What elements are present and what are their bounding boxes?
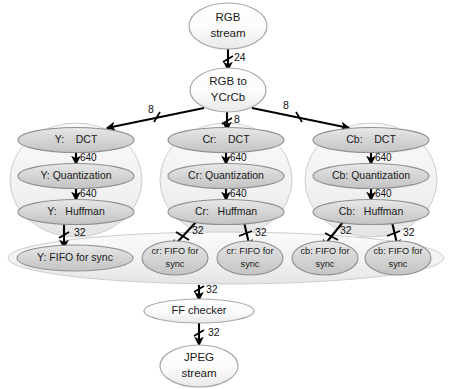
node-cb-huffman[interactable]: Cb: Huffman xyxy=(313,200,429,225)
node-rgb-to-ycrcb[interactable]: RGB to YCrCb xyxy=(190,68,266,112)
node-label-line1: RGB to xyxy=(209,75,247,87)
node-label: Cr: Quantization xyxy=(188,169,264,181)
node-label-line1: cb: FIFO for xyxy=(300,246,349,256)
edge-label-cb-huffman-to-fifo1: 32 xyxy=(340,224,352,236)
edge-label-cb-quant-to-huffman: 640 xyxy=(375,188,392,199)
node-label-line1: JPEG xyxy=(184,351,214,363)
edge-label-y-huffman-to-fifo: 32 xyxy=(74,226,86,238)
node-label: Cb: DCT xyxy=(346,133,396,145)
node-label: Cb: Huffman xyxy=(339,205,404,217)
node-cr-dct[interactable]: Cr: DCT xyxy=(168,128,284,153)
edge-label-cb-huffman-to-fifo2: 32 xyxy=(403,226,415,238)
node-label-line2: stream xyxy=(181,367,216,379)
edge-label-cr-dct-to-quant: 640 xyxy=(230,152,247,163)
node-cb-fifo-for-sync-1[interactable]: cb: FIFO for sync xyxy=(292,241,358,275)
node-cb-dct[interactable]: Cb: DCT xyxy=(313,128,429,153)
edge-label-cr-quant-to-huffman: 640 xyxy=(230,188,247,199)
node-label-line2: sync xyxy=(316,259,335,269)
node-label-line1: cr: FIFO for xyxy=(227,246,274,256)
node-label-line2: sync xyxy=(166,259,185,269)
node-label: FF checker xyxy=(171,304,226,316)
node-ff-checker[interactable]: FF checker xyxy=(144,299,254,323)
edge-label-cr-huffman-to-fifo1: 32 xyxy=(192,224,204,236)
node-cr-quantization[interactable]: Cr: Quantization xyxy=(168,164,284,189)
node-jpeg-stream[interactable]: JPEG stream xyxy=(160,345,238,387)
node-label: Y: DCT xyxy=(55,133,98,145)
edge-label-convert-to-cr: 8 xyxy=(234,113,240,125)
node-label-line2: stream xyxy=(210,27,245,39)
edge-label-ff-checker-to-jpeg: 32 xyxy=(208,326,220,338)
node-label-line2: YCrCb xyxy=(211,91,246,103)
node-label-line1: RGB xyxy=(216,11,241,23)
node-label: Y: Huffman xyxy=(47,205,105,217)
edge-label-convert-to-y: 8 xyxy=(148,103,154,115)
edge-label-y-quant-to-huffman: 640 xyxy=(80,188,97,199)
node-y-dct[interactable]: Y: DCT xyxy=(18,128,134,153)
node-cb-fifo-for-sync-2[interactable]: cb: FIFO for sync xyxy=(365,241,431,275)
edge-label-convert-to-cb: 8 xyxy=(283,99,289,111)
node-cb-quantization[interactable]: Cb: Quantization xyxy=(313,164,429,189)
node-label: Cb: Quantization xyxy=(332,169,410,181)
node-label-line2: sync xyxy=(389,259,408,269)
node-cr-fifo-for-sync-1[interactable]: cr: FIFO for sync xyxy=(142,241,208,275)
node-label: Cr: Huffman xyxy=(195,205,257,217)
node-y-quantization[interactable]: Y: Quantization xyxy=(18,164,134,189)
node-label-line1: cr: FIFO for xyxy=(152,246,199,256)
node-label-line2: sync xyxy=(241,259,260,269)
edge-label-cr-huffman-to-fifo2: 32 xyxy=(255,226,267,238)
edge-label-cb-dct-to-quant: 640 xyxy=(375,152,392,163)
node-shape xyxy=(189,3,267,49)
node-label: Y: Quantization xyxy=(40,169,111,181)
node-rgb-stream[interactable]: RGB stream xyxy=(189,3,267,49)
node-y-huffman[interactable]: Y: Huffman xyxy=(18,200,134,225)
edge-label-fifo-to-ff-checker: 32 xyxy=(206,283,218,295)
node-label-line1: cb: FIFO for xyxy=(373,246,422,256)
jpeg-encoder-pipeline-diagram: RGB stream RGB to YCrCb Y: DCT Y: Quanti… xyxy=(0,0,455,389)
edge-label-rgb-to-convert: 24 xyxy=(234,51,246,63)
edge-label-y-dct-to-quant: 640 xyxy=(80,152,97,163)
node-cr-huffman[interactable]: Cr: Huffman xyxy=(168,200,284,225)
node-y-fifo-for-sync[interactable]: Y: FIFO for sync xyxy=(17,245,133,271)
node-label: Cr: DCT xyxy=(202,133,250,145)
node-cr-fifo-for-sync-2[interactable]: cr: FIFO for sync xyxy=(217,241,283,275)
node-label: Y: FIFO for sync xyxy=(37,251,113,263)
